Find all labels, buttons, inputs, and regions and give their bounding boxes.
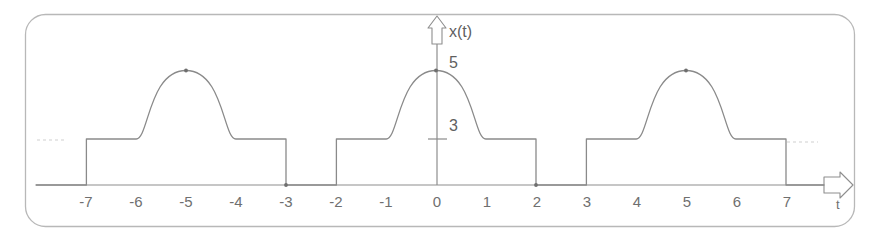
- x-axis-label: t: [836, 197, 840, 212]
- peak-marker-center: [434, 69, 438, 73]
- x-tick-label-0: 0: [433, 193, 441, 210]
- axis-marker-2: [534, 183, 538, 187]
- x-tick-label--1: -1: [379, 193, 392, 210]
- x-tick-label--7: -7: [79, 193, 92, 210]
- signal-curve: [36, 71, 824, 186]
- x-tick-label-1: 1: [483, 193, 491, 210]
- axis-marker-minus3: [284, 183, 288, 187]
- x-tick-label--5: -5: [179, 193, 192, 210]
- plot-canvas: x(t) 5 3 -7 -6 -5 -4 -3 -2 -1 0 1 2 3 4 …: [0, 0, 877, 243]
- x-tick-label--3: -3: [279, 193, 292, 210]
- y-axis-arrow-icon: [428, 16, 446, 44]
- x-tick-label-7: 7: [783, 193, 791, 210]
- t-axis-arrow-icon: [824, 172, 853, 198]
- x-tick-label-5: 5: [683, 193, 691, 210]
- y-tick-label-3: 3: [449, 117, 458, 134]
- x-tick-label-6: 6: [733, 193, 741, 210]
- x-tick-label--6: -6: [129, 193, 142, 210]
- y-axis-label: x(t): [449, 23, 472, 40]
- peak-marker-left: [184, 69, 188, 73]
- x-tick-label-3: 3: [583, 193, 591, 210]
- x-tick-label--4: -4: [229, 193, 242, 210]
- x-tick-label-2: 2: [533, 193, 541, 210]
- y-tick-label-5: 5: [449, 54, 458, 71]
- signal-plot-figure: x(t) 5 3 -7 -6 -5 -4 -3 -2 -1 0 1 2 3 4 …: [0, 0, 877, 243]
- x-tick-label--2: -2: [329, 193, 342, 210]
- x-tick-label-4: 4: [633, 193, 641, 210]
- peak-marker-right: [684, 69, 688, 73]
